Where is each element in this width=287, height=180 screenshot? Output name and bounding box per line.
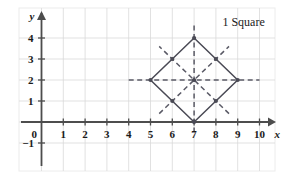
x-tick-label-9: 9 — [235, 129, 241, 140]
marker-vertex-bottom — [192, 120, 196, 124]
x-axis-label: x — [275, 129, 281, 140]
x-tick-label-3: 3 — [104, 129, 110, 140]
marker-edge-midpoint-lower-left — [170, 99, 174, 103]
marker-vertex-right — [236, 78, 240, 82]
y-tick-label-2: 2 — [28, 75, 34, 86]
y-tick-label-4: 4 — [28, 33, 34, 44]
y-tick-label-−1: −1 — [22, 138, 34, 149]
x-tick-label-6: 6 — [170, 129, 176, 140]
x-tick-label-7: 7 — [191, 129, 197, 140]
coordinate-plane-figure: 012345678910−11234 1 Square x y — [0, 0, 287, 180]
y-axis-label: y — [30, 11, 35, 22]
marker-vertex-left — [148, 78, 152, 82]
marker-center-of-symmetry — [192, 78, 196, 82]
marker-edge-midpoint-upper-left — [170, 57, 174, 61]
x-tick-label-1: 1 — [61, 129, 67, 140]
x-tick-label-2: 2 — [82, 129, 88, 140]
y-tick-label-1: 1 — [28, 96, 34, 107]
x-tick-label-8: 8 — [213, 129, 219, 140]
plot-frame-background — [19, 8, 275, 171]
x-tick-label-4: 4 — [126, 129, 132, 140]
marker-edge-midpoint-lower-right — [214, 99, 218, 103]
annotation-1-square: 1 Square — [222, 16, 264, 28]
marker-vertex-top — [192, 36, 196, 40]
x-tick-label-10: 10 — [254, 129, 265, 140]
x-tick-label-5: 5 — [148, 129, 154, 140]
marker-edge-midpoint-upper-right — [214, 57, 218, 61]
y-tick-label-3: 3 — [28, 54, 34, 65]
